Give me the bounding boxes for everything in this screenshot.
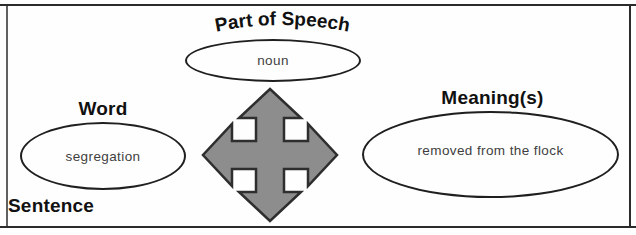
four-way-move-arrow-icon <box>201 87 339 223</box>
word-ellipse: segregation <box>20 122 186 190</box>
part-of-speech-label-text: Part of Speech <box>213 8 351 36</box>
meanings-label: Meaning(s) <box>420 87 565 109</box>
frame-bottom-line <box>0 226 636 228</box>
frame-right-line <box>629 4 631 228</box>
sentence-label: Sentence <box>8 195 94 217</box>
four-way-move-arrow-shape <box>203 89 337 221</box>
meanings-ellipse: removed from the flock <box>362 111 619 198</box>
word-value: segregation <box>66 149 141 164</box>
vocabulary-organizer: Part of Speech noun Word segregation Mea… <box>0 0 636 235</box>
word-label: Word <box>43 98 163 120</box>
part-of-speech-ellipse: noun <box>185 39 361 82</box>
svg-text:Part of Speech: Part of Speech <box>213 8 351 36</box>
meanings-value: removed from the flock <box>417 143 563 158</box>
part-of-speech-value: noun <box>257 53 289 68</box>
